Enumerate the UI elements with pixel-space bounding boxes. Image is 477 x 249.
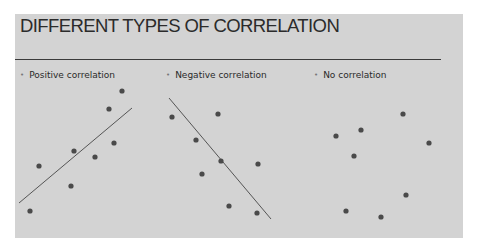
data-point xyxy=(255,161,260,166)
scatter-plots xyxy=(0,0,477,249)
data-point xyxy=(199,171,204,176)
data-point xyxy=(226,203,231,208)
trend-line xyxy=(169,98,271,219)
data-point xyxy=(358,127,363,132)
trend-line xyxy=(19,108,132,203)
scatter-1 xyxy=(169,98,271,219)
data-point xyxy=(218,158,223,163)
data-point xyxy=(403,192,408,197)
data-point xyxy=(254,210,259,215)
data-point xyxy=(215,111,220,116)
data-point xyxy=(426,140,431,145)
data-point xyxy=(169,114,174,119)
scatter-0 xyxy=(19,88,132,213)
data-point xyxy=(36,163,41,168)
data-point xyxy=(71,148,76,153)
data-point xyxy=(343,208,348,213)
data-point xyxy=(92,154,97,159)
data-point xyxy=(111,140,116,145)
data-point xyxy=(119,88,124,93)
data-point xyxy=(68,183,73,188)
data-point xyxy=(400,111,405,116)
data-point xyxy=(351,153,356,158)
data-point xyxy=(27,208,32,213)
data-point xyxy=(106,106,111,111)
data-point xyxy=(193,137,198,142)
data-point xyxy=(378,214,383,219)
scatter-2 xyxy=(333,111,431,219)
data-point xyxy=(333,133,338,138)
